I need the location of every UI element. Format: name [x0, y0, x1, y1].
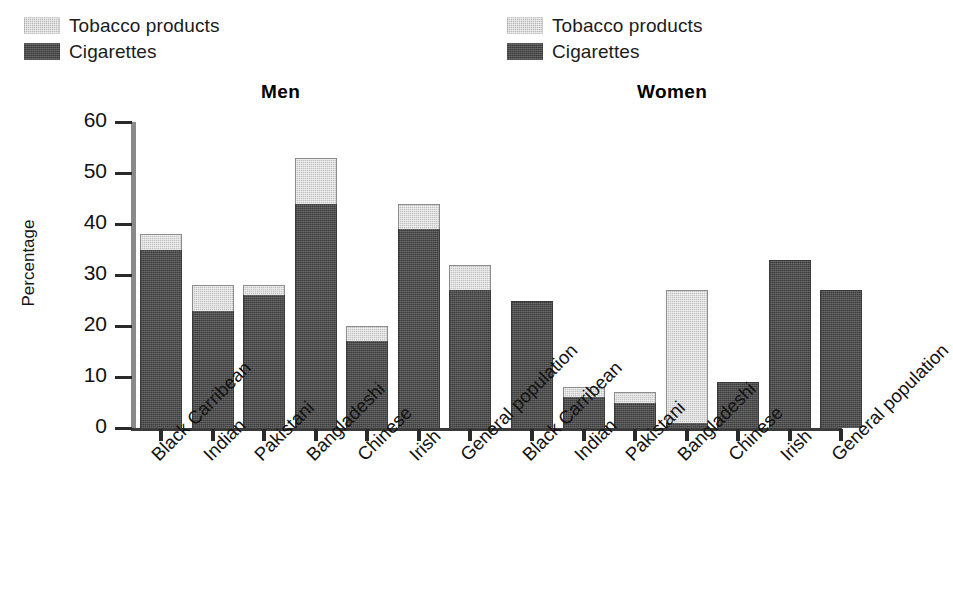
legend-item-cigarettes: Cigarettes	[507, 38, 703, 64]
y-axis-tick-label: 30	[63, 261, 107, 285]
x-axis-label: Irish	[776, 425, 816, 465]
y-axis-tick	[115, 427, 132, 430]
bar-men-irish[interactable]	[398, 122, 440, 428]
y-axis-title: Percentage	[19, 203, 39, 323]
x-axis-label: Irish	[405, 425, 445, 465]
bar-women-chinese[interactable]	[717, 122, 759, 428]
bar-segment-cigarettes	[295, 204, 337, 428]
bar-men-black-carribean[interactable]	[140, 122, 182, 428]
bar-segment-cigarettes	[140, 250, 182, 429]
cigarettes-swatch-icon	[507, 43, 543, 60]
tobacco-products-swatch-icon	[24, 17, 60, 34]
bar-segment-tobacco-products	[295, 158, 337, 204]
bar-men-pakistani[interactable]	[243, 122, 285, 428]
legend-label-cigarettes: Cigarettes	[552, 42, 640, 61]
bar-segment-tobacco-products	[346, 326, 388, 341]
bar-segment-tobacco-products	[449, 265, 491, 291]
y-axis-tick-label: 60	[63, 108, 107, 132]
y-axis-tick	[115, 274, 132, 277]
y-axis-tick-label: 10	[63, 363, 107, 387]
y-axis-tick-label: 40	[63, 210, 107, 234]
y-axis-tick-label: 50	[63, 159, 107, 183]
group-title-men: Men	[261, 81, 300, 103]
bar-women-bangladeshi[interactable]	[666, 122, 708, 428]
bar-segment-cigarettes	[243, 295, 285, 428]
y-axis-tick-label: 20	[63, 312, 107, 336]
legend-label-tobacco-products: Tobacco products	[552, 16, 703, 35]
cigarettes-swatch-icon	[24, 43, 60, 60]
men-legend: Tobacco products Cigarettes	[24, 12, 220, 64]
bar-women-pakistani[interactable]	[614, 122, 656, 428]
bar-segment-tobacco-products	[243, 285, 285, 295]
y-axis-tick-label: 0	[63, 414, 107, 438]
bar-segment-tobacco-products	[398, 204, 440, 230]
bar-women-general-population[interactable]	[820, 122, 862, 428]
bar-segment-tobacco-products	[614, 392, 656, 402]
bar-segment-tobacco-products	[140, 234, 182, 249]
bar-segment-cigarettes	[449, 290, 491, 428]
bar-men-bangladeshi[interactable]	[295, 122, 337, 428]
legend-item-tobacco-products: Tobacco products	[24, 12, 220, 38]
legend-label-tobacco-products: Tobacco products	[69, 16, 220, 35]
legend-item-cigarettes: Cigarettes	[24, 38, 220, 64]
legend-item-tobacco-products: Tobacco products	[507, 12, 703, 38]
y-axis-tick	[115, 223, 132, 226]
bar-segment-tobacco-products	[192, 285, 234, 311]
y-axis-tick	[115, 172, 132, 175]
bar-segment-cigarettes	[820, 290, 862, 428]
tobacco-products-swatch-icon	[507, 17, 543, 34]
legend-label-cigarettes: Cigarettes	[69, 42, 157, 61]
y-axis-tick	[115, 325, 132, 328]
bar-men-general-population[interactable]	[449, 122, 491, 428]
bar-segment-cigarettes	[769, 260, 811, 428]
y-axis-tick	[115, 121, 132, 124]
bar-women-irish[interactable]	[769, 122, 811, 428]
bar-segment-cigarettes	[398, 229, 440, 428]
bar-men-chinese[interactable]	[346, 122, 388, 428]
group-title-women: Women	[637, 81, 707, 103]
y-axis-tick	[115, 376, 132, 379]
women-legend: Tobacco products Cigarettes	[507, 12, 703, 64]
